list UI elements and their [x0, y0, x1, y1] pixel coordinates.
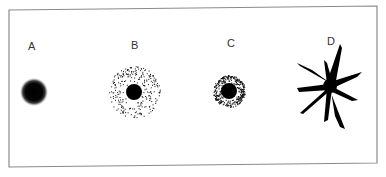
panel-d-label: D: [327, 35, 335, 47]
blurred-dot-icon: [20, 78, 48, 106]
figure-canvas: A B C D: [0, 0, 386, 177]
panel-a: A: [20, 40, 48, 106]
panel-d: D: [297, 35, 362, 129]
panel-c: C: [214, 37, 246, 108]
panel-b: B: [109, 39, 161, 118]
dot-core-icon: [126, 84, 142, 100]
dot-core-icon: [221, 83, 237, 99]
panel-c-label: C: [227, 37, 235, 49]
panel-b-label: B: [131, 39, 138, 51]
panel-a-label: A: [28, 40, 36, 52]
star-burst-icon: [297, 44, 362, 129]
